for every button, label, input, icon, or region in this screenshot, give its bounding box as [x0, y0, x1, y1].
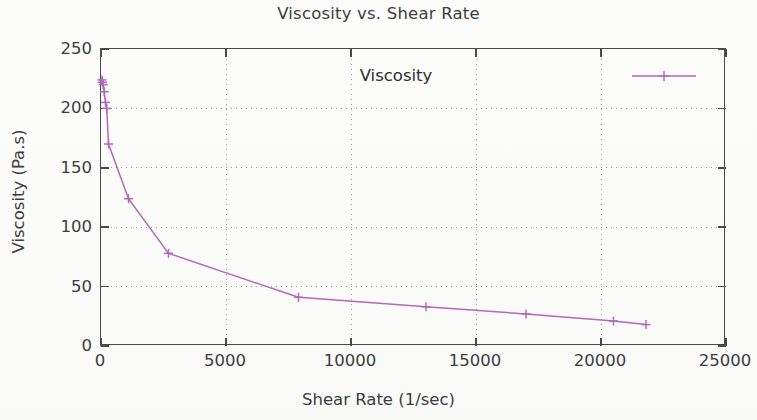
- y-tick-label: 200: [61, 98, 93, 117]
- y-tick-label: 250: [61, 39, 93, 58]
- x-tick-label: 0: [95, 351, 106, 370]
- y-tick-label: 50: [71, 276, 92, 295]
- data-series-viscosity: [101, 49, 726, 346]
- chart-screenshot: Viscosity vs. Shear Rate 050100150200250…: [0, 0, 757, 420]
- legend-line-sample: [632, 70, 696, 82]
- y-tick-label: 150: [61, 157, 93, 176]
- legend: Viscosity: [100, 64, 725, 92]
- page-title: Viscosity vs. Shear Rate: [0, 4, 757, 23]
- x-tick-label: 10000: [324, 351, 377, 370]
- legend-item-viscosity: Viscosity: [360, 66, 433, 85]
- x-axis-tick-labels: 0500010000150002000025000: [0, 351, 757, 375]
- x-tick-label: 15000: [449, 351, 502, 370]
- y-axis-tick-labels: 050100150200250: [38, 48, 92, 345]
- y-tick-label: 100: [61, 217, 93, 236]
- x-tick-label: 5000: [204, 351, 246, 370]
- x-axis-title: Shear Rate (1/sec): [0, 390, 757, 409]
- y-axis-title: Viscosity (Pa.s): [9, 92, 28, 292]
- x-tick-label: 25000: [699, 351, 752, 370]
- x-tick-label: 20000: [574, 351, 627, 370]
- plot-area: [100, 48, 725, 345]
